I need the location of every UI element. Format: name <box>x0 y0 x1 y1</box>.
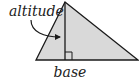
base-label: base <box>54 64 87 80</box>
triangle-diagram: altitude base <box>0 0 139 81</box>
altitude-label: altitude <box>9 3 64 19</box>
